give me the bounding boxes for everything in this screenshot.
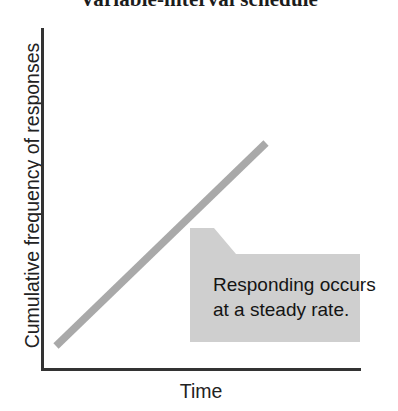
chart-figure: Variable-interval schedule Cumulative fr… xyxy=(0,0,398,411)
callout-annotation-text: Responding occurs at a steady rate. xyxy=(213,272,398,322)
plot-area xyxy=(0,0,398,411)
x-axis-label: Time xyxy=(41,380,361,403)
